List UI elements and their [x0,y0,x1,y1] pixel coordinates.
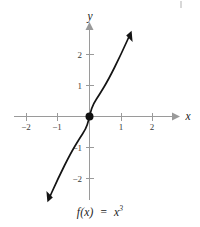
y-tick-label-pos1: 1 [78,81,83,91]
figure-caption: f(x) = x3 [0,204,200,218]
y-axis [86,22,94,200]
y-tick-label-neg2: −2 [72,174,82,184]
x-axis-arrowhead [172,113,180,121]
x-axis-label: x [184,110,191,122]
x-tick-label-pos2: 2 [150,122,155,132]
x-tick-label-pos1: 1 [119,122,124,132]
caption-exponent: 3 [119,204,123,213]
corner-artifact-mark [180,1,182,8]
x-axis [14,113,180,121]
x-tick-label-neg2: −2 [21,122,31,132]
origin-point-marker [86,113,94,121]
caption-equals-sign: = [94,206,114,218]
cubic-function-plot: −2 −1 1 2 2 1 −1 −2 y x [0,0,200,227]
y-axis-arrowhead [86,22,94,30]
figure-container: −2 −1 1 2 2 1 −1 −2 y x f(x) = x3 [0,0,200,227]
y-tick-label-pos2: 2 [78,50,83,60]
caption-function-name: f(x) [77,206,94,218]
x-tick-label-neg1: −1 [52,122,62,132]
y-axis-label: y [86,10,93,23]
